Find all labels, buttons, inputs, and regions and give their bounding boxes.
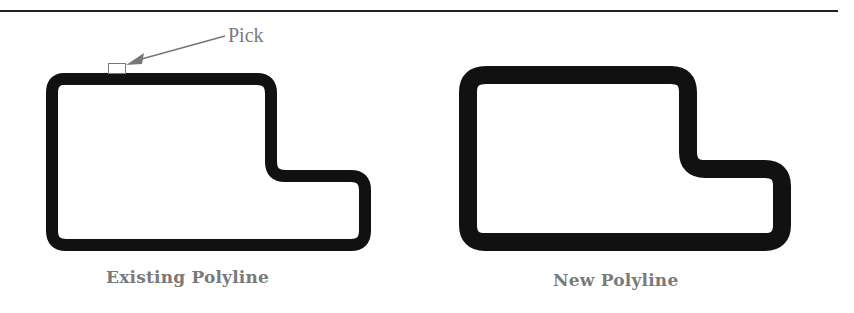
new-polyline-shape bbox=[468, 75, 782, 242]
pick-arrow-head-icon bbox=[126, 53, 144, 65]
new-polyline-caption: New Polyline bbox=[553, 270, 678, 290]
existing-polyline-shape bbox=[52, 79, 365, 245]
pick-arrow-line bbox=[138, 36, 225, 60]
existing-polyline-caption: Existing Polyline bbox=[106, 267, 269, 287]
pick-box bbox=[109, 64, 126, 74]
pick-label: Pick bbox=[228, 24, 264, 47]
